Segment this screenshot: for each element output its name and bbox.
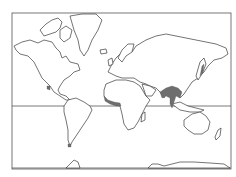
range-central-america: [47, 86, 50, 90]
iceland: [100, 49, 107, 54]
indonesia: [172, 102, 204, 112]
south-america: [64, 98, 92, 146]
range-tierra-del-fuego: [68, 144, 71, 147]
north-america: [14, 40, 80, 100]
greenland: [70, 14, 102, 56]
baffin-island: [60, 26, 72, 42]
new-zealand: [215, 128, 221, 140]
arctic-archipelago: [40, 18, 62, 36]
world-map: [0, 0, 236, 177]
australia: [184, 112, 210, 134]
antarctica: [66, 160, 230, 168]
